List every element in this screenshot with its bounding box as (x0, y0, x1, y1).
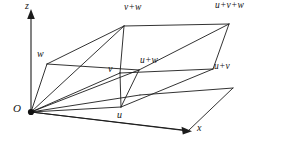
ground-edge-right (140, 88, 233, 95)
vertex-label-u: u (117, 110, 122, 120)
ground-edge-left (31, 95, 140, 112)
parallelepiped-figure: z x O w u v u+w u+v v+w u+v+w (0, 0, 283, 146)
ground-plane-edges (31, 88, 233, 131)
vector-parallelepiped-svg (0, 0, 283, 146)
vertex-label-v: v (108, 64, 113, 74)
edge-u-v-vertical (120, 73, 121, 107)
z-axis (27, 9, 35, 112)
edge-u-uv (121, 69, 213, 107)
edge-O-uw-diagonal (31, 70, 139, 112)
vertex-label-u-plus-w: u+w (140, 56, 158, 66)
vertex-label-w: w (37, 49, 44, 59)
edge-v-vw (120, 26, 124, 73)
z-axis-label: z (25, 1, 29, 11)
vertex-label-u-plus-v-plus-w: u+v+w (215, 1, 244, 11)
x-axis-arrowhead (182, 127, 193, 135)
vertex-label-v-plus-w: v+w (124, 3, 142, 13)
edge-vw-w (47, 26, 124, 64)
top-parallelogram (47, 24, 229, 70)
edge-w-uw (47, 64, 139, 70)
ground-edge-back (188, 88, 233, 131)
vertex-label-u-plus-v: u+v (214, 62, 230, 72)
edge-uvw-vw (124, 24, 229, 26)
edge-v-O (31, 73, 120, 112)
x-axis (31, 112, 192, 135)
origin-dot (28, 109, 34, 115)
x-axis-label: x (197, 123, 202, 133)
x-axis-line (31, 112, 183, 130)
origin-label: O (13, 103, 21, 114)
